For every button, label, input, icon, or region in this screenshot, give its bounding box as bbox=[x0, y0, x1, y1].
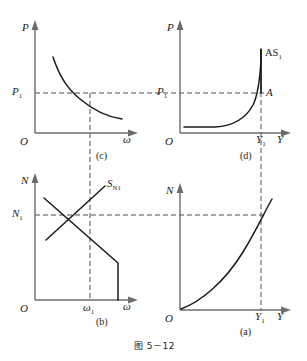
panel-d-y-axis-label: P bbox=[167, 22, 174, 33]
panel-a-axes bbox=[180, 188, 286, 310]
panel-c-p1-sub: 1 bbox=[19, 92, 23, 100]
figure-caption: 图 5－12 bbox=[134, 339, 175, 352]
panel-b-sn1-curve-label: SN1 bbox=[107, 178, 121, 192]
panel-a-production-function-curve bbox=[181, 199, 272, 309]
panel-d-as1-base: AS bbox=[265, 47, 278, 58]
panel-a-y1-sub: 1 bbox=[261, 317, 265, 325]
figure-container: P ω O P1 (c) P Y O P1 Y1 AS1 A (d) N ω O… bbox=[0, 0, 307, 361]
panel-b-x-axis-label: ω bbox=[123, 301, 131, 312]
panel-c-p1-base: P bbox=[12, 85, 19, 97]
panel-c-price-wage-curve bbox=[53, 57, 122, 119]
panel-d-as1-curve bbox=[184, 49, 261, 127]
panel-b-origin-label: O bbox=[20, 303, 28, 314]
panel-b-omega1-label: ω1 bbox=[83, 302, 94, 316]
panel-b-n1-label: N1 bbox=[12, 208, 23, 222]
panel-b-labor-supply-curve bbox=[46, 186, 105, 240]
panel-d-p1-base: P bbox=[157, 85, 164, 97]
panel-a bbox=[177, 183, 291, 313]
panel-b-sn1-sub: N1 bbox=[113, 184, 122, 192]
panel-d-as1-sub: 1 bbox=[278, 53, 282, 61]
panel-c-origin-label: O bbox=[20, 136, 28, 147]
panel-d-p1-label: P1 bbox=[157, 86, 167, 100]
panel-a-x-axis-label: Y bbox=[277, 311, 283, 322]
panel-d-p1-sub: 1 bbox=[164, 92, 168, 100]
panel-a-tag: (a) bbox=[240, 327, 251, 337]
panel-b-labor-demand-curve bbox=[44, 198, 118, 300]
panel-a-y1-label: Y1 bbox=[255, 311, 265, 325]
panel-d-y-axis-arrow bbox=[177, 20, 184, 30]
panel-d-tag: (d) bbox=[240, 151, 252, 161]
panel-a-y-axis-label: N bbox=[166, 185, 173, 196]
four-quadrant-diagram bbox=[0, 0, 307, 361]
panel-c-y-axis-label: P bbox=[22, 22, 29, 33]
panel-c-axes bbox=[35, 25, 133, 133]
panel-c-tag: (c) bbox=[96, 151, 107, 161]
panel-a-origin-label: O bbox=[165, 313, 173, 324]
panel-a-y-axis-arrow bbox=[177, 183, 184, 193]
panel-b-omega1-base: ω bbox=[83, 301, 91, 313]
panel-c-p1-label: P1 bbox=[12, 86, 22, 100]
panel-d-x-axis-label: Y bbox=[277, 134, 283, 145]
panel-b-y-axis-arrow bbox=[32, 173, 39, 183]
panel-d bbox=[177, 20, 291, 136]
panel-d-y1-sub: 1 bbox=[262, 140, 266, 148]
panel-b-tag: (b) bbox=[96, 317, 108, 327]
panel-c-y-axis-arrow bbox=[32, 20, 39, 30]
panel-d-axes bbox=[180, 25, 286, 133]
panel-d-as1-curve-label: AS1 bbox=[265, 48, 282, 61]
panel-d-point-a-label: A bbox=[266, 87, 273, 98]
cross-panel-dashed-lines bbox=[35, 60, 265, 310]
panel-d-origin-label: O bbox=[165, 136, 173, 147]
panel-b bbox=[32, 173, 138, 303]
panel-c bbox=[32, 20, 138, 136]
panel-b-y-axis-label: N bbox=[21, 175, 28, 186]
panel-c-x-axis-label: ω bbox=[123, 134, 131, 145]
panel-b-omega1-sub: 1 bbox=[91, 308, 95, 316]
panel-b-n1-sub: 1 bbox=[19, 214, 23, 222]
panel-d-y1-label: Y1 bbox=[256, 134, 266, 148]
